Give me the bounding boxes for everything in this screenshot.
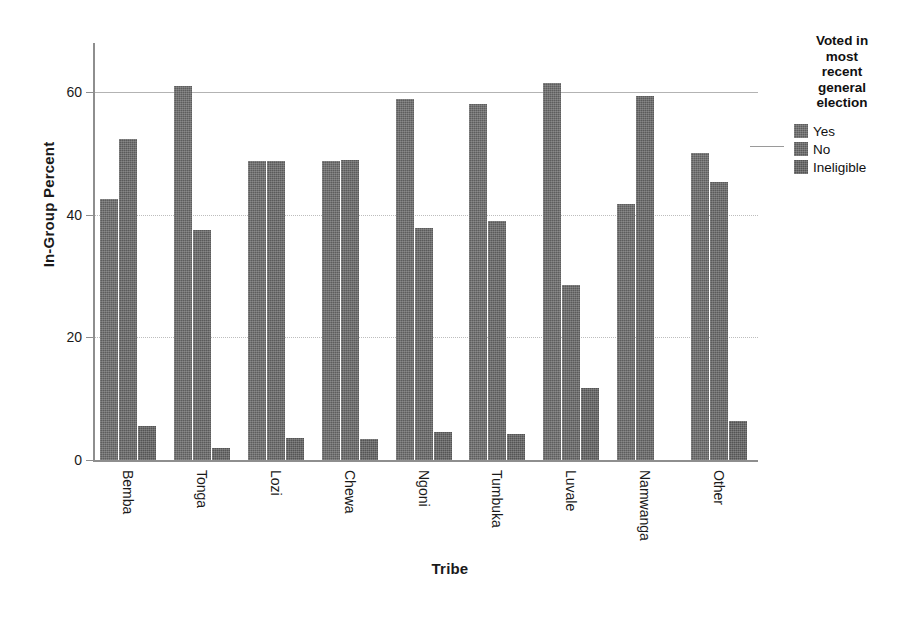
legend-label: No xyxy=(813,142,830,157)
y-tick-mark xyxy=(86,337,93,338)
legend-swatch-icon xyxy=(794,160,808,174)
legend-label: Ineligible xyxy=(813,160,866,175)
bar xyxy=(100,199,118,460)
bar xyxy=(248,161,266,460)
legend-label: Yes xyxy=(813,124,835,139)
bar-group xyxy=(396,43,452,460)
y-tick-mark xyxy=(86,215,93,216)
legend-leader-line xyxy=(750,146,784,147)
x-tick-label: Tonga xyxy=(194,470,210,508)
x-tick-label: Ngoni xyxy=(416,470,432,507)
bar xyxy=(469,104,487,460)
x-tick-label: Luvale xyxy=(563,470,579,511)
bar xyxy=(212,448,230,460)
bar xyxy=(636,96,654,460)
bar-group xyxy=(322,43,378,460)
bar xyxy=(617,204,635,460)
bar xyxy=(415,228,433,460)
bar xyxy=(691,153,709,460)
legend-swatch-icon xyxy=(794,142,808,156)
bar-chart-figure: In-Group Percent Tribe 0204060 BembaTong… xyxy=(0,0,900,624)
legend-title-line: most xyxy=(786,49,898,65)
bar xyxy=(543,83,561,460)
bar-group xyxy=(543,43,599,460)
x-axis-title: Tribe xyxy=(90,560,810,577)
legend-swatch-icon xyxy=(794,124,808,138)
bar xyxy=(174,86,192,460)
legend-title: Voted inmostrecentgeneralelection xyxy=(786,33,898,111)
y-tick-mark xyxy=(86,92,93,93)
bar-group xyxy=(100,43,156,460)
legend-item[interactable]: Yes xyxy=(794,124,898,139)
x-tick-label: Bemba xyxy=(120,470,136,514)
bar xyxy=(360,439,378,460)
bar xyxy=(119,139,137,460)
bar xyxy=(286,438,304,460)
x-axis-spine xyxy=(93,460,758,462)
y-tick-label: 20 xyxy=(66,329,82,345)
bar-group xyxy=(617,43,673,460)
bar xyxy=(710,182,728,460)
bar xyxy=(488,221,506,460)
y-tick-label: 60 xyxy=(66,84,82,100)
y-axis-spine xyxy=(93,43,95,462)
bar-group xyxy=(469,43,525,460)
bar xyxy=(396,99,414,460)
plot-area: 0204060 xyxy=(93,43,758,462)
bar xyxy=(562,285,580,460)
x-tick-label: Other xyxy=(711,470,727,505)
y-axis-title: In-Group Percent xyxy=(40,95,57,315)
x-tick-label: Namwanga xyxy=(637,470,653,541)
legend-items: YesNoIneligible xyxy=(786,124,898,175)
y-tick-label: 40 xyxy=(66,207,82,223)
bar-group xyxy=(174,43,230,460)
x-tick-label: Lozi xyxy=(268,470,284,496)
bar xyxy=(507,434,525,460)
bar xyxy=(267,161,285,460)
legend: Voted inmostrecentgeneralelection YesNoI… xyxy=(786,33,898,178)
bar xyxy=(341,160,359,460)
y-tick-mark xyxy=(86,460,93,461)
bar-group xyxy=(248,43,304,460)
bar xyxy=(322,161,340,460)
legend-title-line: recent xyxy=(786,64,898,80)
y-tick-label: 0 xyxy=(74,452,82,468)
bar xyxy=(193,230,211,460)
x-tick-label: Chewa xyxy=(342,470,358,514)
bar xyxy=(434,432,452,460)
bar-group xyxy=(691,43,747,460)
bar xyxy=(138,426,156,460)
legend-title-line: general xyxy=(786,80,898,96)
legend-title-line: Voted in xyxy=(786,33,898,49)
legend-item[interactable]: No xyxy=(794,142,898,157)
legend-title-line: election xyxy=(786,95,898,111)
legend-item[interactable]: Ineligible xyxy=(794,160,898,175)
bar xyxy=(729,421,747,460)
bar xyxy=(581,388,599,460)
x-tick-label: Tumbuka xyxy=(489,470,505,528)
